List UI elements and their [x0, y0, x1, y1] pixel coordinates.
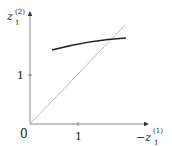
x-label-sup: (1) [153, 127, 163, 135]
chart: 0 1 1 z (2) 1 −z (1) 1 [0, 0, 172, 146]
origin-label: 0 [20, 127, 28, 141]
y-label-sub: 1 [15, 19, 19, 27]
y-axis-label: z [6, 10, 13, 23]
y-tick-label: 1 [17, 69, 24, 82]
x-tick-label: 1 [75, 130, 82, 143]
x-label-prefix: −z [136, 131, 151, 144]
y-label-sup: (2) [15, 8, 25, 16]
y-label-prefix: z [6, 10, 13, 23]
x-axis-label: −z [136, 131, 151, 144]
curve-line [52, 38, 126, 50]
x-label-sub: 1 [154, 139, 158, 146]
